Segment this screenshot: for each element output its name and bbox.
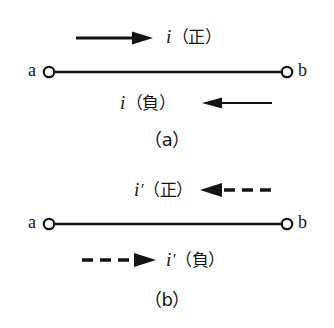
current-sign-positive: （正） bbox=[172, 27, 222, 47]
terminal-label-a-right: b bbox=[298, 61, 307, 79]
prime-mark: ′ bbox=[172, 250, 176, 269]
current-symbol-i-prime: i bbox=[166, 249, 172, 270]
caption-panel-a: （a） bbox=[0, 131, 334, 149]
arrow-b-top-left-dashed bbox=[200, 182, 276, 198]
arrow-b-bottom-right-dashed bbox=[82, 252, 158, 268]
arrow-a-top-right-solid bbox=[76, 30, 154, 46]
panel-b: i′（正） a b i′（負） （b） bbox=[0, 164, 334, 328]
wire-a bbox=[0, 60, 334, 84]
current-sign-negative: （負） bbox=[126, 93, 176, 113]
label-current-a-positive: i（正） bbox=[166, 27, 221, 46]
label-current-a-negative: i（負） bbox=[120, 93, 175, 112]
figure-root: i（正） a b i（負） （a） i′（正） bbox=[0, 0, 334, 328]
terminal-label-b-right: b bbox=[298, 213, 307, 231]
current-symbol-i-prime: i bbox=[134, 179, 140, 200]
panel-a: i（正） a b i（負） （a） bbox=[0, 0, 334, 164]
wire-b bbox=[0, 212, 334, 236]
arrow-a-bottom-left-solid bbox=[202, 96, 272, 110]
current-sign-positive: （正） bbox=[143, 180, 193, 200]
terminal-node-b-right bbox=[282, 219, 292, 229]
prime-mark: ′ bbox=[140, 180, 144, 199]
label-current-b-positive: i′（正） bbox=[134, 180, 193, 199]
terminal-node-a-left bbox=[44, 67, 54, 77]
terminal-node-a-right bbox=[282, 67, 292, 77]
caption-panel-b: （b） bbox=[0, 291, 334, 309]
label-current-b-negative: i′（負） bbox=[166, 250, 225, 269]
current-sign-negative: （負） bbox=[175, 250, 225, 270]
terminal-node-b-left bbox=[44, 219, 54, 229]
